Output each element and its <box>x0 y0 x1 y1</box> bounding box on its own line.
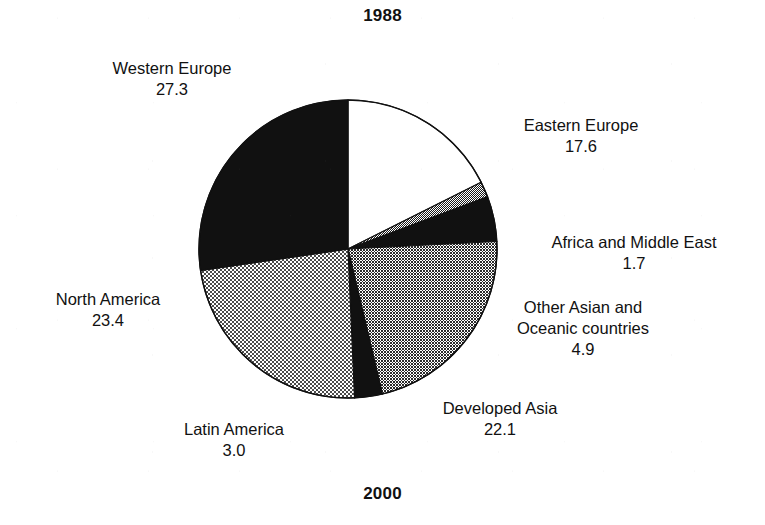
pie-label-eastern-europe-category: Eastern Europe <box>476 115 686 136</box>
pie-label-north-america-value: 23.4 <box>8 310 208 331</box>
pie-chart-svg <box>198 99 498 399</box>
pie-label-africa-middle-east: Africa and Middle East 1.7 <box>508 232 760 274</box>
chart-title-top: 1988 <box>0 6 765 26</box>
pie-label-western-europe-value: 27.3 <box>62 79 282 100</box>
pie-label-developed-asia-category: Developed Asia <box>400 398 600 419</box>
pie-label-other-asian-oceanic: Other Asian and Oceanic countries 4.9 <box>478 297 688 360</box>
pie-label-developed-asia: Developed Asia 22.1 <box>400 398 600 440</box>
pie-label-other-asian-oceanic-category-line1: Other Asian and <box>478 297 688 318</box>
pie-label-developed-asia-value: 22.1 <box>400 419 600 440</box>
pie-label-latin-america-category: Latin America <box>134 419 334 440</box>
pie-label-eastern-europe: Eastern Europe 17.6 <box>476 115 686 157</box>
pie-label-other-asian-oceanic-category-line2: Oceanic countries <box>478 318 688 339</box>
pie-slice-north-america <box>201 249 355 398</box>
pie-slice-western-europe <box>199 100 348 270</box>
chart-title-bottom: 2000 <box>0 484 765 504</box>
pie-label-western-europe: Western Europe 27.3 <box>62 58 282 100</box>
pie-label-north-america-category: North America <box>8 289 208 310</box>
pie-chart <box>198 99 498 399</box>
pie-label-latin-america: Latin America 3.0 <box>134 419 334 461</box>
chart-canvas: 1988 <box>0 0 765 525</box>
pie-label-africa-middle-east-value: 1.7 <box>508 253 760 274</box>
pie-label-north-america: North America 23.4 <box>8 289 208 331</box>
pie-label-eastern-europe-value: 17.6 <box>476 136 686 157</box>
pie-label-latin-america-value: 3.0 <box>134 440 334 461</box>
pie-label-other-asian-oceanic-value: 4.9 <box>478 339 688 360</box>
pie-label-western-europe-category: Western Europe <box>62 58 282 79</box>
pie-label-africa-middle-east-category: Africa and Middle East <box>508 232 760 253</box>
